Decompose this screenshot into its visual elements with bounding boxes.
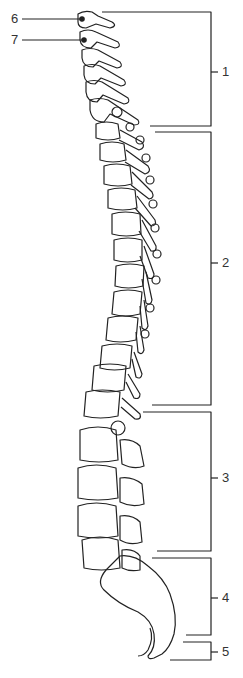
spine-diagram (0, 0, 243, 678)
cervical-vertebrae (78, 11, 139, 131)
sacrum-coccyx (100, 556, 175, 659)
label-5-coccyx: 5 (222, 645, 229, 658)
label-7: 7 (11, 33, 18, 46)
lumbar-vertebrae (78, 421, 144, 571)
label-2-thoracic: 2 (222, 256, 229, 269)
label-6: 6 (11, 12, 18, 25)
label-1-cervical: 1 (222, 65, 229, 78)
thoracic-vertebrae (84, 122, 161, 419)
label-4-sacrum: 4 (222, 591, 229, 604)
label-3-lumbar: 3 (222, 471, 229, 484)
pointer-lines (22, 17, 86, 42)
